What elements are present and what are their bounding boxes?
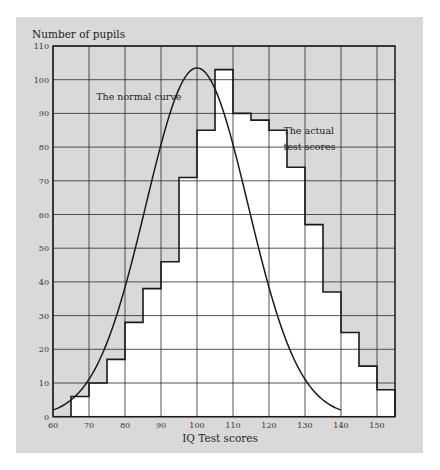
x-tick-label: 90 <box>156 421 166 430</box>
x-axis-ticks: 60708090100110120130140150 <box>48 421 385 430</box>
x-tick-label: 130 <box>297 421 312 430</box>
histogram-bar <box>89 383 107 417</box>
iq-histogram-chart: 0102030405060708090100110 60708090100110… <box>0 0 440 470</box>
y-tick-label: 80 <box>39 143 49 152</box>
x-tick-label: 70 <box>84 421 94 430</box>
x-tick-label: 80 <box>120 421 130 430</box>
histogram-bar <box>323 292 341 417</box>
histogram-bar <box>215 70 233 417</box>
histogram-bar <box>71 396 89 416</box>
x-tick-label: 120 <box>261 421 276 430</box>
histogram-bar <box>359 366 377 417</box>
y-tick-label: 50 <box>39 244 49 253</box>
histogram-bar <box>251 120 269 417</box>
annotation-label: The normal curve <box>96 91 182 102</box>
histogram-bar <box>269 130 287 416</box>
y-axis-label: Number of pupils <box>32 28 125 40</box>
x-tick-label: 110 <box>225 421 240 430</box>
histogram-bar <box>125 322 143 416</box>
histogram-bar <box>143 289 161 417</box>
histogram-bar <box>305 225 323 417</box>
histogram-bar <box>233 113 251 416</box>
histogram-bar <box>287 167 305 416</box>
x-tick-label: 100 <box>189 421 204 430</box>
x-tick-label: 140 <box>333 421 348 430</box>
y-tick-label: 90 <box>39 109 49 118</box>
y-tick-label: 110 <box>34 42 49 51</box>
y-tick-label: 10 <box>39 379 49 388</box>
histogram-bar <box>161 262 179 417</box>
histogram-bar <box>377 390 395 417</box>
histogram-bar <box>341 332 359 416</box>
y-axis-ticks: 0102030405060708090100110 <box>34 42 49 422</box>
x-axis-label: IQ Test scores <box>182 432 258 444</box>
y-tick-label: 70 <box>39 177 49 186</box>
y-tick-label: 20 <box>39 345 49 354</box>
y-tick-label: 30 <box>39 312 49 321</box>
x-tick-label: 150 <box>369 421 384 430</box>
histogram-bar <box>197 130 215 416</box>
histogram-bar <box>179 177 197 416</box>
y-tick-label: 60 <box>39 211 49 220</box>
y-tick-label: 40 <box>39 278 49 287</box>
annotation-label: test scores <box>283 141 335 152</box>
histogram-bar <box>107 359 125 416</box>
y-tick-label: 100 <box>34 76 49 85</box>
x-tick-label: 60 <box>48 421 58 430</box>
annotation-label: The actual <box>283 125 334 136</box>
